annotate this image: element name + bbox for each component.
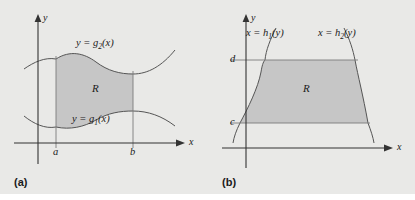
- panel-b-graphic: [208, 0, 415, 200]
- curve-label-g1: y = g1(x): [72, 113, 110, 127]
- curve-label-h2: x = h2(y): [318, 27, 356, 41]
- tick-label-a: a: [53, 146, 58, 157]
- tick-label-b: b: [130, 146, 135, 157]
- tick-label-d: d: [230, 53, 235, 64]
- panel-a-graphic: [0, 0, 207, 200]
- curve-label-h1: x = h1(y): [246, 27, 284, 41]
- tick-label-c: c: [230, 116, 235, 127]
- figure-container: x y y = g2(x) y = g1(x) R a b (a): [0, 0, 415, 200]
- region-label-a: R: [92, 82, 99, 94]
- panel-caption-a: (a): [14, 176, 27, 188]
- x-axis-label-a: x: [189, 136, 193, 147]
- x-axis-label-b: x: [397, 141, 401, 152]
- y-axis-arrow-a: [35, 14, 42, 22]
- panel-caption-b: (b): [222, 176, 236, 188]
- bottom-white-strip: [0, 194, 415, 200]
- x-axis-arrow-a: [176, 140, 185, 147]
- y-axis-label-b: y: [251, 12, 255, 23]
- x-axis-arrow-b: [384, 145, 393, 152]
- curve-label-g2: y = g2(x): [76, 37, 114, 51]
- region-label-b: R: [303, 82, 310, 94]
- panel-b: x y x = h1(y) x = h2(y) R d c (b): [208, 0, 415, 200]
- y-axis-arrow-b: [243, 14, 250, 22]
- y-axis-label-a: y: [43, 12, 47, 23]
- panel-a: x y y = g2(x) y = g1(x) R a b (a): [0, 0, 207, 200]
